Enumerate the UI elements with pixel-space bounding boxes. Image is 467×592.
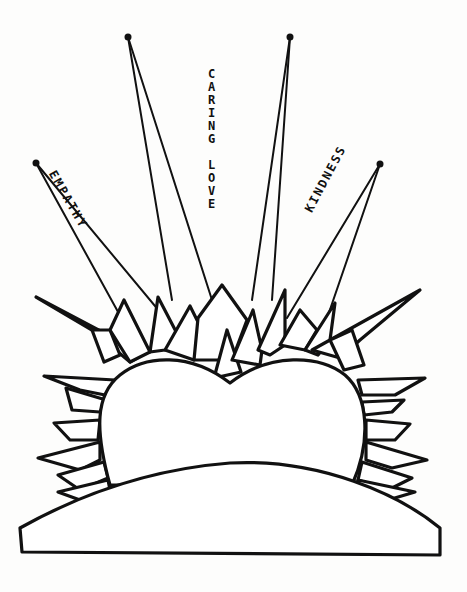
label-letter: E: [208, 198, 215, 211]
ray-mid-left: [125, 34, 213, 301]
sunrise-drawing: [0, 0, 467, 592]
label-caring-love: CARING LOVE: [208, 68, 215, 211]
illustration-page: EMPATHY CARING LOVE KINDNESS: [0, 0, 467, 592]
ray-mid-right: [252, 34, 294, 301]
